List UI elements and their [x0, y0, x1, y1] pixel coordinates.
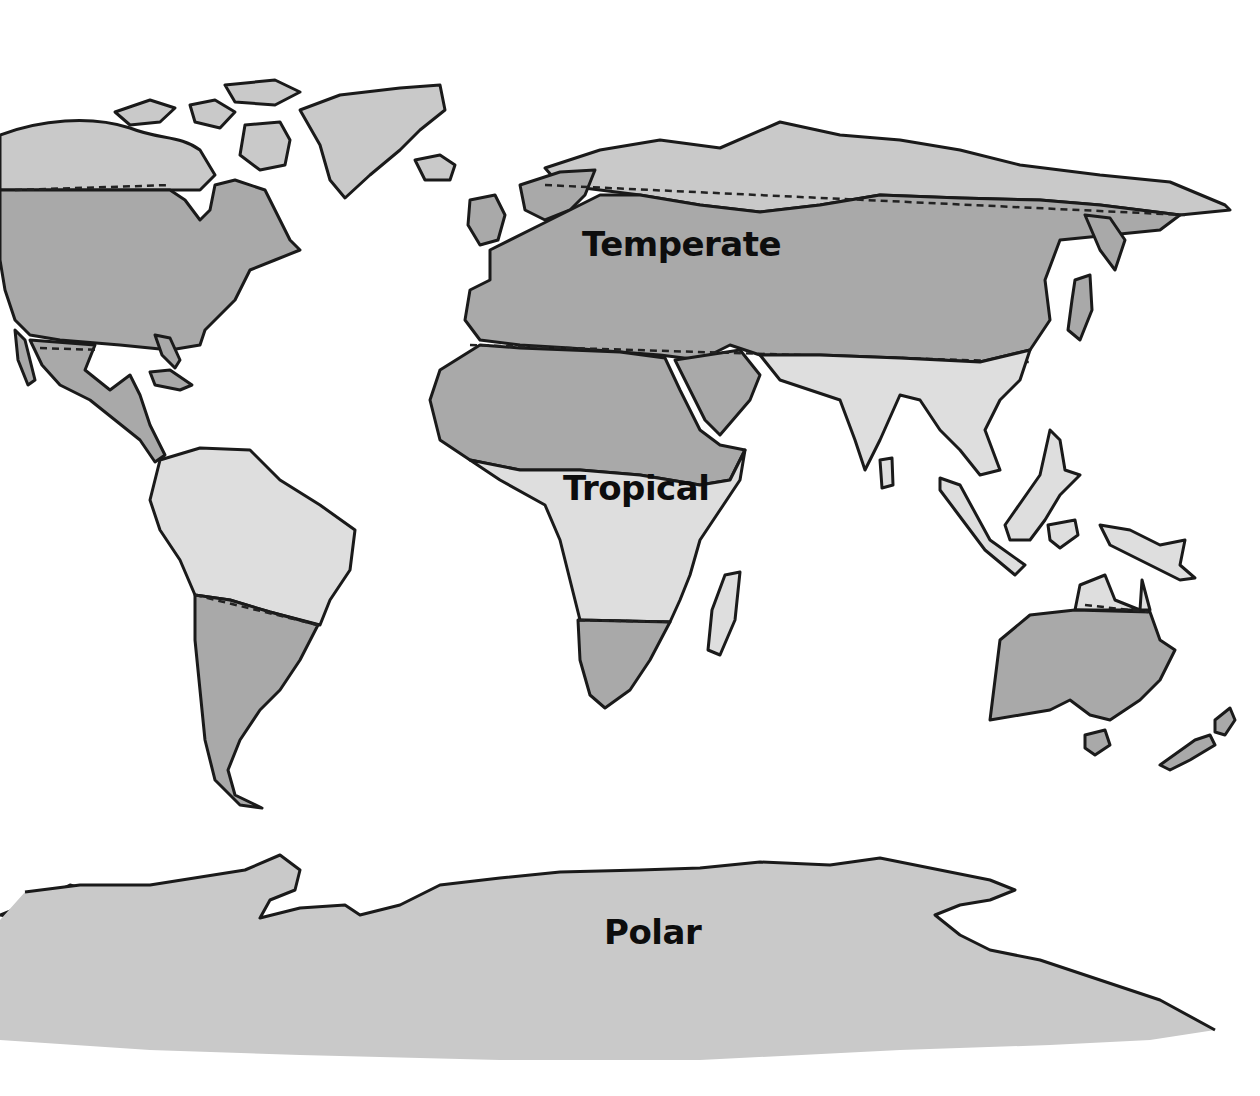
south-america-tropical — [150, 448, 355, 625]
north-america-polar — [0, 121, 215, 190]
central-america — [30, 340, 165, 462]
zone-label-polar: Polar — [604, 912, 701, 952]
new-guinea — [1100, 525, 1195, 580]
north-america-temperate — [0, 180, 300, 350]
iceland — [415, 155, 455, 180]
baffin-island — [240, 122, 290, 170]
arctic-islands — [190, 100, 235, 128]
zone-label-temperate: Temperate — [582, 224, 781, 264]
british-isles — [468, 195, 505, 245]
eurasia-temperate — [465, 195, 1180, 362]
zone-label-tropical: Tropical — [563, 468, 709, 508]
sri-lanka — [880, 458, 893, 488]
south-america-temperate — [195, 595, 318, 808]
new-zealand — [1215, 708, 1235, 735]
baja-california — [15, 330, 35, 385]
japan — [1068, 275, 1092, 340]
australia-temperate — [990, 610, 1175, 720]
madagascar — [708, 572, 740, 655]
cuba — [150, 370, 192, 390]
africa-south-temperate — [578, 620, 670, 708]
south-asia — [760, 350, 1030, 475]
arctic-islands — [225, 80, 300, 105]
sulawesi — [1048, 520, 1078, 548]
tasmania — [1085, 730, 1110, 755]
greenland — [300, 85, 445, 198]
new-zealand — [1160, 735, 1215, 770]
arctic-islands — [115, 100, 175, 125]
